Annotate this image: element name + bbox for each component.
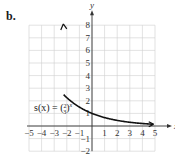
svg-text:4: 4 (140, 128, 145, 138)
svg-text:−5: −5 (24, 128, 34, 138)
svg-text:2: 2 (115, 128, 120, 138)
svg-text:8: 8 (86, 20, 91, 30)
svg-text:y: y (89, 0, 94, 10)
svg-text:2: 2 (86, 96, 91, 106)
exponential-graph: xy −5−4−3−2−112345−2−112345678 s(x) = (2… (0, 0, 175, 159)
svg-text:−3: −3 (49, 128, 59, 138)
svg-text:6: 6 (86, 45, 91, 55)
svg-text:−1: −1 (80, 134, 90, 144)
svg-text:1: 1 (86, 108, 91, 118)
svg-text:−4: −4 (37, 128, 47, 138)
svg-text:−2: −2 (62, 128, 72, 138)
svg-text:x: x (173, 121, 175, 131)
svg-text:5: 5 (153, 128, 158, 138)
function-curve (64, 95, 153, 125)
svg-text:1: 1 (102, 128, 107, 138)
svg-text:−2: −2 (80, 146, 90, 156)
svg-text:4: 4 (86, 71, 91, 81)
svg-text:5: 5 (86, 58, 91, 68)
svg-text:3: 3 (128, 128, 133, 138)
svg-text:3: 3 (86, 83, 91, 93)
svg-text:7: 7 (86, 33, 91, 43)
